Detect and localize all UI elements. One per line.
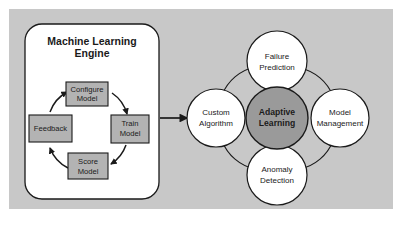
adaptive-learning-label-line2: Learning: [259, 118, 295, 128]
model-management-label-line2: Management: [317, 119, 364, 128]
ml-engine-title-line1: Machine Learning: [47, 35, 136, 47]
anomaly-detection-circle: [247, 145, 307, 205]
anomaly-detection-label-line1: Anomaly: [261, 165, 292, 174]
node-failure-prediction[interactable]: Failure Prediction: [247, 31, 307, 91]
adaptive-learning-label-line1: Adaptive: [259, 107, 296, 117]
node-train-model[interactable]: Train Model: [111, 115, 149, 143]
ml-engine-title-line2: Engine: [74, 47, 109, 59]
node-anomaly-detection[interactable]: Anomaly Detection: [247, 145, 307, 205]
score-model-label-line1: Score: [78, 157, 98, 166]
diagram-canvas: Machine Learning Engine Configure Model …: [0, 0, 402, 229]
node-model-management[interactable]: Model Management: [311, 89, 369, 147]
model-management-circle: [311, 89, 369, 147]
node-custom-algorithm[interactable]: Custom Algorithm: [187, 89, 245, 147]
node-score-model[interactable]: Score Model: [68, 153, 108, 179]
score-model-label-line2: Model: [78, 167, 99, 176]
node-configure-model[interactable]: Configure Model: [66, 82, 108, 106]
train-model-label-line1: Train: [121, 119, 138, 128]
node-adaptive-learning[interactable]: Adaptive Learning: [246, 87, 308, 149]
anomaly-detection-label-line2: Detection: [260, 176, 294, 185]
feedback-label: Feedback: [34, 124, 68, 133]
custom-algorithm-label-line2: Algorithm: [199, 119, 233, 128]
configure-model-label-line2: Model: [77, 94, 98, 103]
configure-model-label-line1: Configure: [71, 85, 104, 94]
failure-prediction-circle: [247, 31, 307, 91]
failure-prediction-label-line2: Prediction: [259, 63, 295, 72]
diagram-figure: Machine Learning Engine Configure Model …: [0, 0, 402, 229]
custom-algorithm-circle: [187, 89, 245, 147]
custom-algorithm-label-line1: Custom: [202, 108, 230, 117]
model-management-label-line1: Model: [329, 108, 351, 117]
failure-prediction-label-line1: Failure: [265, 52, 290, 61]
train-model-label-line2: Model: [120, 129, 141, 138]
node-feedback[interactable]: Feedback: [29, 115, 72, 142]
